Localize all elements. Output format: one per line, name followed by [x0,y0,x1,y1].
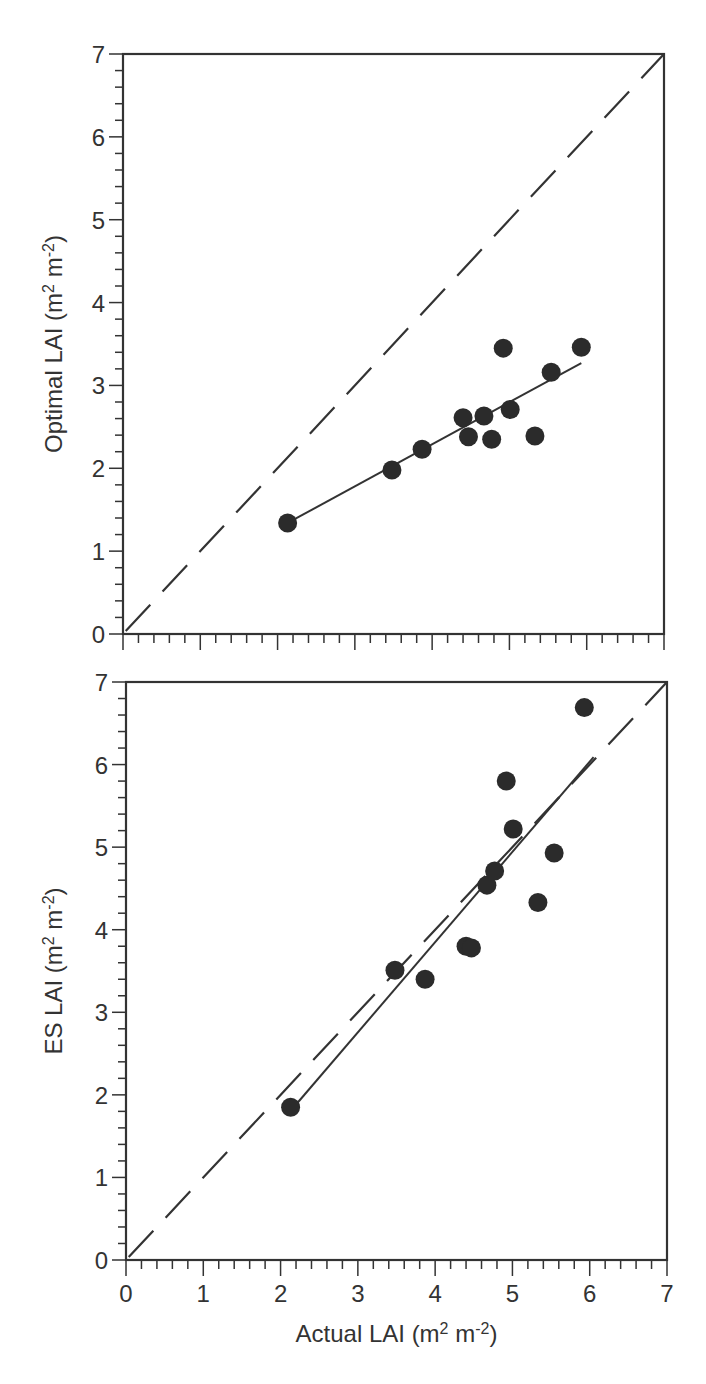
y-tick-label: 3 [95,999,108,1026]
y-axis-title-sup1: 2 [40,936,57,945]
x-axis-title-prefix: Actual LAI (m [296,1320,440,1347]
x-tick-label: 5 [506,1280,519,1307]
y-axis-title-prefix: ES LAI (m [40,945,67,1054]
data-point [454,408,473,427]
y-axis-title-suffix: ) [40,235,67,243]
data-point [525,426,544,445]
panel-optimal-lai: 01234567Optimal LAI (m2 m-2) [40,41,665,650]
data-point [501,400,520,419]
y-axis-title-prefix: Optimal LAI (m [40,293,67,453]
data-point [572,338,591,357]
x-tick-label: 7 [660,1280,673,1307]
y-tick-label: 2 [95,1082,108,1109]
x-axis-title-sup1: 2 [440,1320,449,1337]
y-axis-title-mid: m [40,910,67,937]
data-point [416,970,435,989]
y-axis-title: ES LAI (m2 m-2) [40,887,68,1054]
x-tick-label: 3 [351,1280,364,1307]
y-axis-title: Optimal LAI (m2 m-2) [40,235,68,453]
x-axis-title: Actual LAI (m2 m-2) [296,1320,498,1348]
y-tick-label: 7 [92,41,105,68]
x-axis-title-sup2: -2 [475,1320,489,1337]
y-tick-label: 6 [95,752,108,779]
panel-es-lai: 0123456701234567ES LAI (m2 m-2)Actual LA… [40,669,674,1347]
y-axis-title-sup2: -2 [40,895,57,909]
data-point [462,938,481,957]
y-tick-label: 0 [92,621,105,648]
y-tick-label: 4 [95,917,108,944]
y-tick-label: 3 [92,372,105,399]
y-tick-label: 1 [95,1164,108,1191]
x-tick-label: 1 [197,1280,210,1307]
data-point [474,407,493,426]
y-tick-label: 1 [92,538,105,565]
data-point [485,862,504,881]
data-point [494,339,513,358]
data-point [459,427,478,446]
data-point [528,893,547,912]
x-tick-label: 4 [428,1280,441,1307]
data-point [278,513,297,532]
data-point [382,460,401,479]
x-axis-title-mid: m [449,1320,476,1347]
y-tick-label: 2 [92,455,105,482]
y-axis-title-suffix: ) [40,887,67,895]
y-tick-label: 5 [92,207,105,234]
y-tick-label: 6 [92,124,105,151]
data-point [281,1098,300,1117]
y-tick-label: 7 [95,669,108,696]
data-point [482,430,501,449]
y-tick-label: 5 [95,834,108,861]
data-point [385,961,404,980]
figure: 01234567Optimal LAI (m2 m-2) 01234567012… [0,0,706,1384]
x-tick-label: 6 [583,1280,596,1307]
y-axis-title-mid: m [40,257,67,284]
y-tick-label: 0 [95,1247,108,1274]
data-point [504,819,523,838]
x-tick-label: 0 [119,1280,132,1307]
data-point [413,440,432,459]
y-axis-title-sup2: -2 [40,243,57,257]
data-point [497,772,516,791]
data-point [575,698,594,717]
y-tick-label: 4 [92,290,105,317]
data-point [545,843,564,862]
x-tick-label: 2 [274,1280,287,1307]
data-point [542,363,561,382]
y-axis-title-sup1: 2 [40,284,57,293]
x-axis-title-suffix: ) [489,1320,497,1347]
